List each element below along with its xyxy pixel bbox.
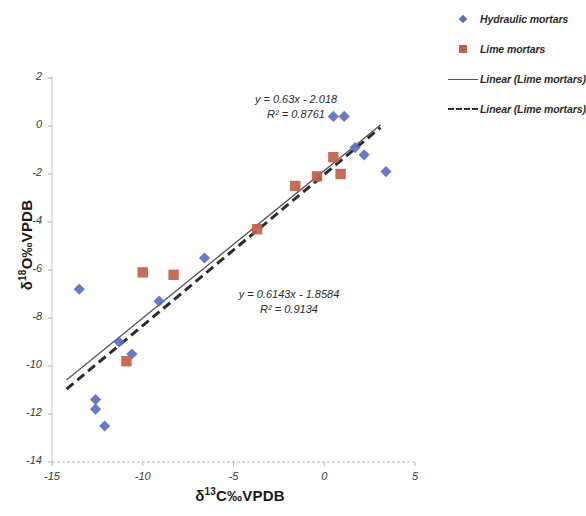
- x-axis-title-rest: C‰VPDB: [216, 487, 285, 504]
- legend-item[interactable]: Linear (Lime mortars): [446, 64, 574, 94]
- legend-item[interactable]: Hydraulic mortars: [446, 4, 574, 34]
- x-tick-label: 5: [400, 470, 430, 482]
- data-point-lime: [121, 356, 131, 366]
- data-point-hydraulic: [153, 296, 164, 307]
- legend-item[interactable]: Linear (Lime mortars): [446, 94, 574, 124]
- x-tick-marks: [52, 462, 415, 466]
- hydraulic-trendline-equation: y = 0.63x - 2.018 R² = 0.8761: [228, 92, 364, 122]
- data-point-lime: [335, 169, 345, 179]
- data-point-lime: [328, 152, 338, 162]
- hydraulic-r2-text: R² = 0.8761: [228, 107, 364, 122]
- legend-item-label: Lime mortars: [480, 43, 545, 55]
- legend-key: [446, 16, 480, 22]
- legend-key: [446, 79, 480, 80]
- x-axis-title-superscript: 13: [205, 486, 217, 497]
- y-tick-label: -12: [16, 406, 42, 418]
- axes: [52, 76, 415, 462]
- legend-diamond-icon: [459, 15, 467, 23]
- data-point-lime: [138, 267, 148, 277]
- legend-item-label: Hydraulic mortars: [480, 13, 568, 25]
- trendlines: [67, 125, 381, 389]
- lime-trendline-equation: y = 0.6143x - 1.8584 R² = 0.9134: [218, 287, 360, 317]
- y-tick-marks: [48, 78, 52, 462]
- x-tick-label: -5: [219, 470, 249, 482]
- data-point-lime: [168, 270, 178, 280]
- x-axis-title: δ13C‰VPDB: [120, 486, 360, 504]
- legend-key: [446, 45, 480, 53]
- legend-solid-line-icon: [448, 79, 478, 80]
- y-axis-title-delta: δ: [18, 281, 35, 290]
- y-tick-label: 2: [16, 70, 42, 82]
- legend-square-icon: [459, 45, 467, 53]
- y-axis-title-rest: O‰VPDB: [18, 200, 35, 270]
- legend-item-label: Linear (Lime mortars): [480, 73, 586, 85]
- trendline-solid: [67, 125, 381, 380]
- data-point-hydraulic: [90, 394, 101, 405]
- lime-equation-text: y = 0.6143x - 1.8584: [218, 287, 360, 302]
- lime-r2-text: R² = 0.9134: [218, 302, 360, 317]
- data-point-hydraulic: [114, 336, 125, 347]
- legend-dashed-line-icon: [448, 108, 478, 110]
- y-tick-label: -14: [16, 454, 42, 466]
- hydraulic-equation-text: y = 0.63x - 2.018: [228, 92, 364, 107]
- legend-item[interactable]: Lime mortars: [446, 34, 574, 64]
- y-tick-label: -10: [16, 358, 42, 370]
- data-point-hydraulic: [199, 252, 210, 263]
- y-axis-title: δ18O‰VPDB: [17, 175, 35, 315]
- x-tick-label: -15: [37, 470, 67, 482]
- data-point-hydraulic: [380, 166, 391, 177]
- data-point-lime: [312, 171, 322, 181]
- legend-key: [446, 108, 480, 110]
- x-axis-title-delta: δ: [195, 487, 204, 504]
- trendline-dashed: [67, 128, 381, 390]
- y-axis-title-superscript: 18: [17, 269, 28, 281]
- chart-legend: Hydraulic mortarsLime mortarsLinear (Lim…: [446, 4, 574, 124]
- x-tick-label: 0: [309, 470, 339, 482]
- data-point-lime: [252, 224, 262, 234]
- data-points: [74, 111, 392, 432]
- data-point-lime: [290, 181, 300, 191]
- data-point-hydraulic: [74, 284, 85, 295]
- data-point-hydraulic: [359, 149, 370, 160]
- data-point-hydraulic: [90, 404, 101, 415]
- x-tick-label: -10: [128, 470, 158, 482]
- data-point-hydraulic: [99, 420, 110, 431]
- legend-item-label: Linear (Lime mortars): [480, 103, 586, 115]
- y-tick-label: 0: [16, 118, 42, 130]
